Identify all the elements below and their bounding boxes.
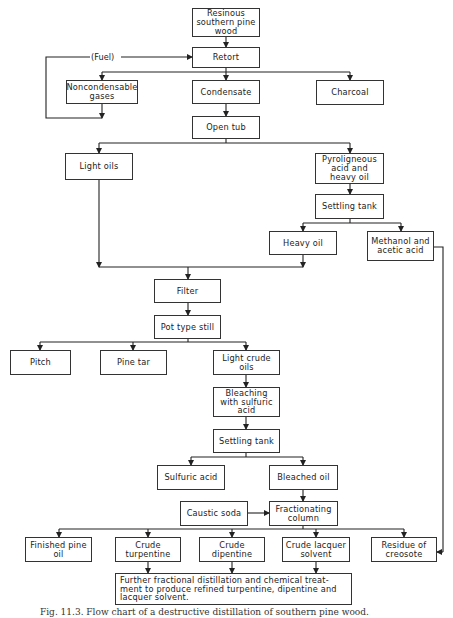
node-caustic-soda: Caustic soda: [180, 501, 248, 526]
node-bleaching: Bleaching with sulfuric acid: [213, 387, 280, 417]
node-open-tub: Open tub: [192, 116, 260, 139]
node-light-oils: Light oils: [65, 153, 133, 180]
node-settling-tank-1: Settling tank: [315, 194, 384, 219]
fuel-label: (Fuel): [90, 52, 115, 62]
node-filter: Filter: [154, 279, 221, 303]
node-light-crude-oils: Light crude oils: [213, 350, 280, 375]
node-fractionating-column: Fractionating column: [269, 501, 338, 526]
node-charcoal: Charcoal: [316, 80, 384, 105]
node-heavy-oil: Heavy oil: [269, 231, 337, 255]
node-residue-of-creosote: Residue of creosote: [371, 537, 437, 562]
node-pine-tar: Pine tar: [100, 350, 167, 375]
node-pot-type-still: Pot type still: [154, 315, 221, 339]
node-further-distillation: Further fractional distillation and chem…: [115, 573, 352, 605]
node-methanol-acetic-acid: Methanol and acetic acid: [367, 231, 434, 261]
node-crude-turpentine: Crude turpentine: [115, 537, 181, 562]
node-sulfuric-acid: Sulfuric acid: [157, 465, 225, 490]
node-pitch: Pitch: [10, 350, 71, 375]
node-pine-wood: Resinous southern pine wood: [192, 8, 260, 37]
node-crude-dipentine: Crude dipentine: [199, 537, 265, 562]
node-noncondensable-gases: Noncondensable gases: [66, 80, 138, 104]
node-bleached-oil: Bleached oil: [269, 465, 338, 490]
node-crude-lacquer-solvent: Crude lacquer solvent: [282, 537, 350, 562]
node-settling-tank-2: Settling tank: [213, 429, 280, 453]
node-pyroligneous-acid: Pyroligneous acid and heavy oil: [315, 153, 384, 184]
node-condensate: Condensate: [192, 80, 260, 104]
figure-caption: Fig. 11.3. Flow chart of a destructive d…: [40, 607, 369, 617]
node-retort: Retort: [192, 47, 260, 68]
node-finished-pine-oil: Finished pine oil: [25, 537, 92, 562]
